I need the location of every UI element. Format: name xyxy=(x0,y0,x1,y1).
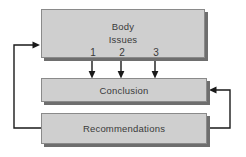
issue-number-3: 3 xyxy=(149,47,163,58)
node-conclusion[interactable]: Conclusion xyxy=(41,78,207,102)
conclusion-label: Conclusion xyxy=(42,85,206,96)
recommendations-to-body-connector xyxy=(14,42,41,128)
node-recommendations[interactable]: Recommendations xyxy=(41,113,207,144)
recommendations-to-conclusion-connector xyxy=(207,87,230,128)
body-label: Body xyxy=(42,21,204,32)
issue-3-to-conclusion-arrow xyxy=(152,58,159,79)
issue-number-1: 1 xyxy=(86,47,100,58)
diagram-canvas: Body Issues 1 2 3 Conclusion Recommendat… xyxy=(0,0,246,157)
issue-1-to-conclusion-arrow xyxy=(89,58,96,79)
issues-label: Issues xyxy=(42,34,204,45)
recommendations-label: Recommendations xyxy=(42,123,206,134)
issue-number-2: 2 xyxy=(115,47,129,58)
node-body-issues[interactable]: Body Issues 1 2 3 xyxy=(41,9,205,58)
issue-2-to-conclusion-arrow xyxy=(118,58,125,79)
